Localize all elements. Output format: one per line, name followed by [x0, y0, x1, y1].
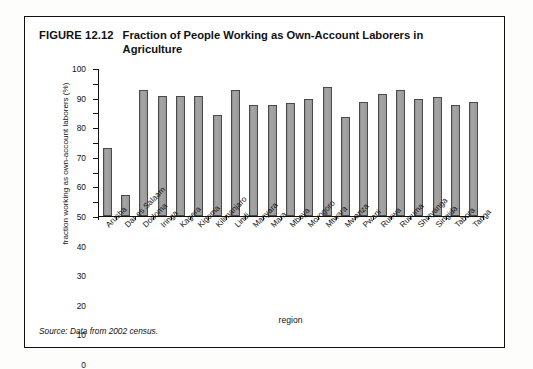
bar	[213, 115, 222, 216]
x-axis-tick	[98, 216, 99, 221]
bar	[268, 105, 277, 216]
bar	[414, 99, 423, 216]
bar	[396, 90, 405, 216]
bar	[194, 96, 203, 216]
figure-number: FIGURE 12.12	[39, 29, 114, 41]
y-axis-tick-label: 20	[77, 301, 86, 311]
y-axis-tick-label: 80	[77, 123, 86, 133]
figure-box: FIGURE 12.12 Fraction of People Working …	[24, 16, 505, 348]
bar	[323, 87, 332, 216]
figure-page: FIGURE 12.12 Fraction of People Working …	[0, 0, 533, 369]
bar	[359, 102, 368, 216]
y-axis-tick-label: 100	[72, 64, 86, 74]
y-axis-tick-label: 50	[77, 212, 86, 222]
x-axis-title: region	[98, 315, 483, 325]
bar	[304, 99, 313, 216]
bar	[103, 148, 112, 216]
source-note: Source: Data from 2002 census.	[39, 326, 158, 336]
bar	[469, 102, 478, 216]
bar	[286, 103, 295, 215]
bar	[176, 96, 185, 216]
figure-title: Fraction of People Working as Own-Accoun…	[123, 29, 475, 56]
x-axis-tick-labels: ArushaDar es SalaamDodomaIringaKageraKig…	[98, 223, 483, 303]
y-axis-tick-label: 30	[77, 271, 86, 281]
chart-plot-area: fraction working as own-account laborers…	[25, 63, 506, 353]
bar	[341, 117, 350, 216]
y-axis-tick-label: 90	[77, 94, 86, 104]
bar	[451, 105, 460, 216]
figure-heading: FIGURE 12.12 Fraction of People Working …	[39, 29, 479, 56]
y-axis-tick-label: 0	[81, 360, 86, 369]
bar	[139, 90, 148, 216]
y-axis-tick-label: 40	[77, 242, 86, 252]
y-axis-tick-label: 60	[77, 182, 86, 192]
bar	[249, 105, 258, 216]
bar	[378, 94, 387, 215]
y-axis-tick-label: 70	[77, 153, 86, 163]
y-axis-title: fraction working as own-account laborers…	[61, 74, 70, 254]
